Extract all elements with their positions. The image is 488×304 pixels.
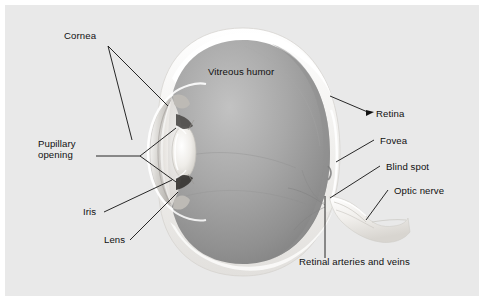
label-retinal-arteries-and-veins: Retinal arteries and veins bbox=[299, 256, 410, 267]
leader-cornea-a bbox=[108, 46, 168, 106]
label-fovea: Fovea bbox=[380, 135, 407, 146]
label-retina: Retina bbox=[376, 108, 404, 119]
optic-nerve-fiber-3 bbox=[372, 220, 406, 222]
arrowhead-retina bbox=[366, 110, 374, 116]
leader-fovea bbox=[336, 140, 374, 162]
eye-diagram-figure: Cornea Pupillaryopening Iris Lens Vitreo… bbox=[0, 0, 488, 304]
label-optic-nerve: Optic nerve bbox=[394, 185, 444, 196]
label-pupillary-opening-line2: opening bbox=[38, 149, 73, 160]
label-cornea: Cornea bbox=[64, 30, 96, 41]
label-pupillary-opening-line1: Pupillary bbox=[38, 138, 76, 149]
label-iris: Iris bbox=[83, 206, 96, 217]
label-blind-spot: Blind spot bbox=[386, 161, 429, 172]
optic-nerve-group bbox=[330, 196, 410, 243]
label-lens: Lens bbox=[104, 234, 125, 245]
leader-cornea-b bbox=[108, 46, 132, 140]
leader-arrowheads-group bbox=[366, 110, 374, 116]
label-vitreous-humor: Vitreous humor bbox=[208, 66, 274, 77]
label-pupillary-opening: Pupillaryopening bbox=[38, 138, 96, 160]
leader-optic-nerve bbox=[366, 190, 388, 220]
